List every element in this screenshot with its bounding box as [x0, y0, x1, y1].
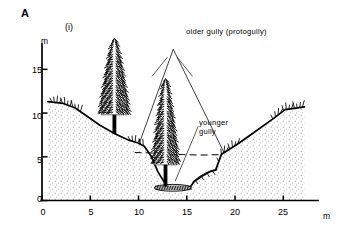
- grass-tuft-0-6: [67, 101, 68, 104]
- tree-foliage-0-28-0: [98, 105, 101, 107]
- grass-tuft-0-5: [64, 97, 65, 103]
- grass-tuft-1-9: [297, 104, 298, 107]
- tree-foliage-1-19-0: [155, 124, 158, 125]
- grass-tuft-0-0: [50, 98, 52, 101]
- figure-root: A (i) m m 0 5 10 15 0 5 10 15 20 25 olde…: [0, 0, 341, 235]
- tree-left-conifer: [98, 38, 131, 134]
- grass-tuft-2-2: [135, 136, 136, 142]
- grass-tuft-0-1: [54, 97, 55, 102]
- grass-tuft-3-2: [224, 146, 225, 152]
- tree-foliage-1-18-0: [155, 121, 158, 123]
- grass-tuft-1-6: [289, 105, 290, 108]
- grass-tuft-3-1: [221, 149, 222, 154]
- grass-tuft-1-1: [275, 112, 276, 117]
- cross-section-drawing: [0, 0, 341, 235]
- tree-foliage-0-28-16: [127, 105, 129, 107]
- grass-tuft-1-5: [286, 103, 287, 109]
- grass-tuft-0-9: [75, 104, 76, 107]
- gully-floor-hatching: [154, 184, 192, 191]
- tree-foliage-1-11-0: [157, 104, 160, 105]
- grass-tuft-1-10: [300, 102, 301, 107]
- tree-foliage-1-35-14: [178, 161, 180, 164]
- tree-foliage-0-20-0: [101, 85, 104, 87]
- older-gully-outline: [139, 49, 224, 153]
- grass-tuft-1-2: [278, 108, 279, 114]
- grass-tuft-2-5: [143, 139, 144, 145]
- grass-tuft-3-6: [235, 142, 236, 145]
- grass-tuft-0-10: [78, 105, 79, 110]
- tree-foliage-1-24-12: [175, 135, 177, 137]
- tree-foliage-0-8-0: [106, 57, 109, 59]
- grass-tuft-3-5: [232, 141, 233, 147]
- grass-tuft-1-11: [303, 101, 305, 107]
- grass-tuft-2-1: [132, 136, 133, 141]
- tree-foliage-1-22-0: [154, 130, 157, 132]
- grass-tuft-0-2: [57, 96, 58, 102]
- grass-tuft-1-0: [271, 115, 273, 118]
- tree-foliage-0-18-12: [123, 81, 125, 83]
- grass-tuft-0-11: [81, 105, 83, 111]
- tree-foliage-1-7-0: [159, 94, 162, 96]
- tree-foliage-0-16-0: [103, 76, 106, 78]
- leader-line-0: [152, 57, 167, 76]
- grass-tuft-3-0: [217, 158, 219, 161]
